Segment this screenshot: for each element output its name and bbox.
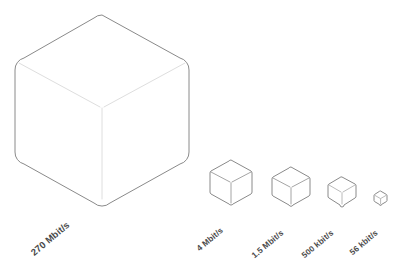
cube-56-kbit xyxy=(374,191,387,206)
cube-270-mbit xyxy=(15,15,189,206)
cube-500-kbit xyxy=(328,177,356,207)
cube-4-mbit xyxy=(210,160,252,205)
chart-canvas: 270 Mbit/s 4 Mbit/s 1.5 Mbit/s 500 kbit/… xyxy=(0,0,398,280)
cube-chart-graphic xyxy=(0,0,398,280)
cube-1-5-mbit xyxy=(272,167,310,206)
